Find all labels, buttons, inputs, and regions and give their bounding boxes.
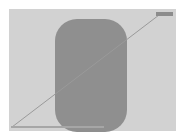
canvas-root	[0, 0, 182, 139]
background-panel	[9, 9, 176, 131]
diagonal-line	[12, 15, 159, 127]
bottom-bar	[11, 126, 104, 128]
corner-swatch	[156, 12, 173, 16]
vector-overlay	[9, 9, 176, 131]
